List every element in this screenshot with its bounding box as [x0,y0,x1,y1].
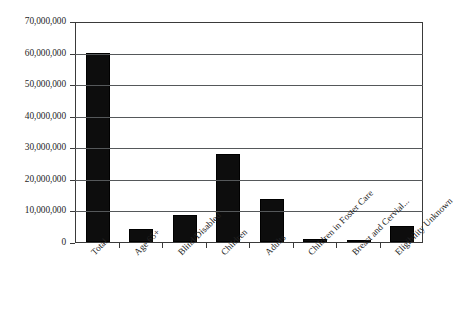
x-axis-tick-label: Age 65+ [132,227,162,257]
x-axis-tick-label: Children [219,227,249,257]
x-axis-tick-label: Adults [263,232,288,257]
x-axis-tick-label: Total [89,237,110,258]
x-axis-tick-label: Blind/Disabled [176,210,223,257]
